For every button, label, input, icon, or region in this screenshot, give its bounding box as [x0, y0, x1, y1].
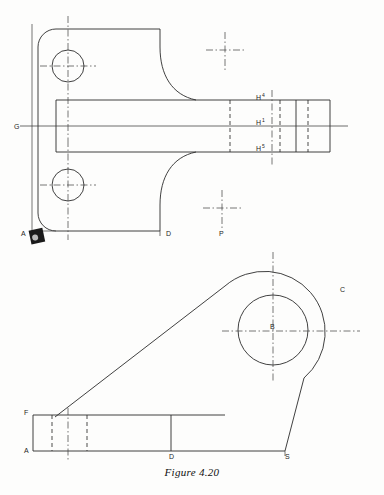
top-view-group [20, 16, 348, 240]
figure-caption: Figure 4.20 [0, 466, 384, 478]
drawing-sheet: G A D P H 4 H 1 H 5 F A D S B C Figure 4… [0, 0, 384, 495]
label-p-top: P [219, 230, 224, 237]
boss-outer-profile [225, 271, 325, 451]
label-h1-superscript: 1 [262, 117, 265, 123]
upper-sloping-edge [55, 286, 225, 417]
label-a-top: A [21, 230, 26, 237]
label-d-top: D [166, 230, 171, 237]
label-s-bottom: S [285, 453, 290, 460]
label-d-bottom: D [169, 453, 174, 460]
label-h5-superscript: 5 [262, 143, 265, 149]
technical-drawing-canvas: G A D P H 4 H 1 H 5 F A D S B C [0, 0, 384, 495]
top-view-outline [38, 29, 330, 231]
cursor-artifact [27, 226, 47, 246]
label-c-bottom: C [340, 286, 345, 293]
label-a-bottom: A [24, 447, 29, 454]
label-h4: H [256, 94, 261, 101]
label-h1: H [256, 119, 261, 126]
label-h4-superscript: 4 [262, 92, 265, 98]
label-h5: H [256, 145, 261, 152]
label-f-bottom: F [24, 409, 28, 416]
label-g-top: G [14, 123, 20, 130]
label-b-bottom: B [270, 323, 275, 330]
bottom-view-group [33, 252, 360, 462]
